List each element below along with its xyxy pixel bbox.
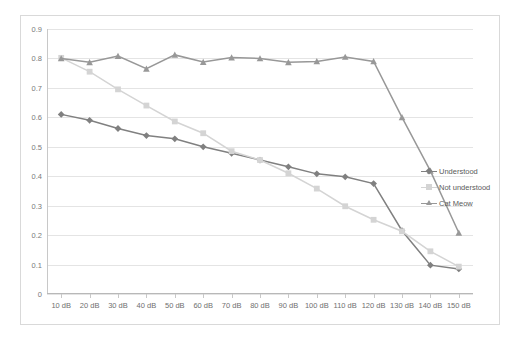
data-point-marker <box>143 65 150 71</box>
data-point-marker <box>115 86 121 92</box>
chart-legend: UnderstoodNot understoodCat Meow <box>421 164 497 212</box>
x-axis-tick-mark <box>61 294 62 298</box>
x-axis-tick-mark <box>317 294 318 298</box>
legend-item-understood[interactable]: Understood <box>421 164 497 178</box>
data-point-marker <box>200 143 207 150</box>
data-point-marker <box>58 111 65 118</box>
x-axis-tick-label: 30 dB <box>108 301 128 310</box>
x-axis-tick-label: 70 dB <box>222 301 242 310</box>
legend-swatch-icon <box>421 183 437 192</box>
y-axis-tick-label: 0.1 <box>32 260 42 269</box>
x-axis-tick-mark <box>175 294 176 298</box>
x-axis-tick-label: 10 dB <box>51 301 71 310</box>
x-axis-tick-mark <box>90 294 91 298</box>
series-understood <box>58 111 462 272</box>
x-axis-tick-mark <box>232 294 233 298</box>
data-point-marker <box>314 186 320 192</box>
x-axis-tick-label: 20 dB <box>80 301 100 310</box>
x-axis-tick-mark <box>345 294 346 298</box>
data-point-marker <box>143 132 150 139</box>
data-point-marker <box>172 119 178 125</box>
data-point-marker <box>86 117 93 124</box>
x-axis-tick-mark <box>118 294 119 298</box>
chart-frame: 00.10.20.30.40.50.60.70.80.9 10 dB20 dB3… <box>20 15 500 325</box>
data-point-marker <box>285 163 292 170</box>
data-point-marker <box>456 229 463 235</box>
series-line <box>61 55 459 233</box>
legend-label: Understood <box>439 167 478 176</box>
x-axis-tick-mark <box>260 294 261 298</box>
x-axis-tick-mark <box>430 294 431 298</box>
y-axis-tick-label: 0.2 <box>32 231 42 240</box>
x-axis-tick-label: 40 dB <box>137 301 157 310</box>
data-point-marker <box>115 125 122 132</box>
data-point-marker <box>370 180 377 187</box>
y-axis-tick-label: 0.5 <box>32 142 42 151</box>
data-point-marker <box>200 130 206 136</box>
legend-label: Cat Meow <box>439 199 473 208</box>
x-axis-tick-mark <box>288 294 289 298</box>
x-axis-tick-label: 140 dB <box>419 301 443 310</box>
y-axis-tick-label: 0.3 <box>32 201 42 210</box>
series-cat-meow <box>58 52 462 236</box>
x-axis-tick-mark <box>402 294 403 298</box>
y-axis-tick-label: 0.4 <box>32 172 42 181</box>
x-axis-tick-mark <box>146 294 147 298</box>
data-point-marker <box>229 148 235 154</box>
data-point-marker <box>399 114 406 120</box>
data-point-marker <box>371 217 377 223</box>
data-point-marker <box>456 264 462 270</box>
x-axis-tick-label: 150 dB <box>447 301 471 310</box>
data-point-marker <box>428 248 434 254</box>
y-axis-tick-label: 0.7 <box>32 83 42 92</box>
x-axis-tick-mark <box>459 294 460 298</box>
x-axis-tick-label: 80 dB <box>250 301 270 310</box>
legend-item-not-understood[interactable]: Not understood <box>421 180 497 194</box>
x-axis-tick-mark <box>374 294 375 298</box>
legend-swatch-icon <box>421 199 437 208</box>
y-axis-tick-label: 0.8 <box>32 54 42 63</box>
plot-area: 00.10.20.30.40.50.60.70.80.9 10 dB20 dB3… <box>47 29 473 294</box>
x-axis-tick-label: 120 dB <box>362 301 386 310</box>
x-axis-tick-label: 50 dB <box>165 301 185 310</box>
data-point-marker <box>399 228 405 234</box>
x-axis-tick-label: 100 dB <box>305 301 329 310</box>
data-point-marker <box>342 173 349 180</box>
data-point-marker <box>257 157 263 163</box>
y-axis-tick-label: 0.9 <box>32 25 42 34</box>
y-axis-tick-label: 0 <box>38 290 42 299</box>
series-not-understood <box>58 55 461 270</box>
legend-item-cat-meow[interactable]: Cat Meow <box>421 196 497 210</box>
x-axis-tick-mark <box>203 294 204 298</box>
series-line <box>61 114 459 269</box>
data-point-marker <box>144 103 150 109</box>
data-point-marker <box>171 135 178 142</box>
data-point-marker <box>87 69 93 75</box>
legend-label: Not understood <box>439 183 490 192</box>
data-point-marker <box>342 203 348 209</box>
series-plot <box>47 29 473 294</box>
data-point-marker <box>286 170 292 176</box>
y-axis-tick-label: 0.6 <box>32 113 42 122</box>
legend-swatch-icon <box>421 167 437 176</box>
x-axis-tick-label: 60 dB <box>193 301 213 310</box>
x-axis-tick-label: 110 dB <box>334 301 357 310</box>
data-point-marker <box>172 52 179 58</box>
x-axis-tick-label: 90 dB <box>279 301 299 310</box>
x-axis-tick-label: 130 dB <box>390 301 414 310</box>
data-point-marker <box>313 170 320 177</box>
